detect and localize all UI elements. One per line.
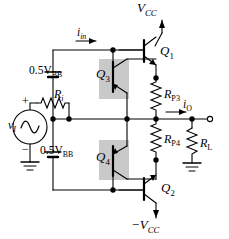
bias-upper-subscript: BB <box>52 70 62 79</box>
source-plus-sign: + <box>22 95 29 107</box>
ri-subscript: i <box>61 94 63 103</box>
bias-upper-label: 0.5VBB <box>29 65 62 79</box>
output-terminal <box>207 116 212 121</box>
node-q1-base-q3-base <box>110 47 115 52</box>
q1-upper-lead <box>144 37 156 46</box>
q4-subscript: 4 <box>105 157 109 167</box>
bias-lower-text: 0.5V <box>40 144 63 156</box>
node-bias-rail-center <box>50 116 55 121</box>
vi-subscript: I <box>13 125 16 134</box>
rl-subscript: L <box>207 143 212 152</box>
node-q3-q4-output <box>124 116 129 121</box>
negative-vcc-subscript: CC <box>148 225 160 235</box>
node-q1-emitter-rp3 <box>153 75 158 80</box>
rp3-subscript: P3 <box>171 94 180 103</box>
vi-label: vI <box>8 119 16 135</box>
rl-resistor <box>187 128 197 163</box>
ri-label: Ri <box>54 88 64 104</box>
node-rp4-q2-emitter <box>153 157 158 162</box>
bias-lower-subscript: BB <box>63 150 73 159</box>
rp4-subscript: P4 <box>171 139 180 148</box>
vcc-text: V <box>137 0 145 15</box>
iin-subscript: in <box>80 32 86 41</box>
q1-text: Q <box>160 43 169 58</box>
q1-label: Q1 <box>160 44 174 60</box>
q4-label: Q4 <box>96 150 110 166</box>
iin-arrow-head <box>89 38 96 44</box>
source-minus-sign: − <box>22 143 29 155</box>
q4-text: Q <box>96 149 105 164</box>
vcc-subscript: CC <box>145 8 157 18</box>
rp4-resistor <box>151 119 161 160</box>
q2-emitter-arrow <box>150 175 156 181</box>
q3-subscript: 3 <box>105 74 109 84</box>
q3-text: Q <box>96 66 105 81</box>
vcc-label: VCC <box>137 1 157 17</box>
rp3-label: RP3 <box>164 88 180 104</box>
q3-label: Q3 <box>96 67 110 83</box>
node-source-bias <box>66 116 71 121</box>
negative-vcc-arrow-head <box>153 210 159 218</box>
bias-upper-text: 0.5V <box>29 64 52 76</box>
iin-label: iin <box>77 27 86 41</box>
rl-label: RL <box>200 137 212 153</box>
vcc-arrow-head <box>159 20 165 28</box>
source-plus-wire <box>30 103 37 110</box>
q2-label: Q2 <box>161 181 175 197</box>
q2-collector-lead <box>144 194 156 203</box>
negative-vcc-text: −V <box>131 217 148 232</box>
circuit-diagram: VCC −VCC Q1 Q2 Q3 Q4 RP3 RP4 RL Ri vI + … <box>0 0 229 239</box>
node-q4-base-q2-base <box>110 187 115 192</box>
q2-text: Q <box>161 180 170 195</box>
node-rl-output <box>189 116 194 121</box>
q1-subscript: 1 <box>169 51 173 61</box>
negative-vcc-label: −VCC <box>131 218 160 234</box>
q2-subscript: 2 <box>170 188 174 198</box>
bias-lower-label: 0.5VBB <box>40 145 73 159</box>
node-output-center <box>153 116 158 121</box>
io-subscript: O <box>186 104 192 113</box>
schematic-canvas <box>0 0 229 239</box>
io-label: iO <box>183 99 192 113</box>
rp4-label: RP4 <box>164 133 180 149</box>
rp3-resistor <box>151 78 161 119</box>
